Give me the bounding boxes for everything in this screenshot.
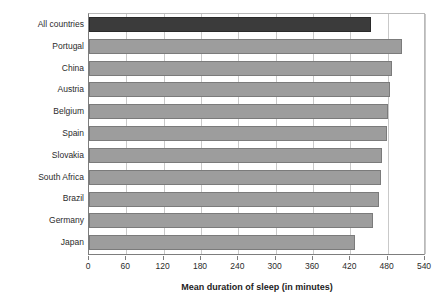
bar[interactable]	[89, 126, 387, 141]
y-axis-tick-label: Belgium	[0, 106, 84, 116]
x-axis-tick-label: 240	[217, 261, 257, 271]
x-axis-tick-label: 300	[255, 261, 295, 271]
y-axis-tick-label: Slovakia	[0, 150, 84, 160]
x-axis-title: Mean duration of sleep (in minutes)	[88, 282, 426, 292]
bar[interactable]	[89, 104, 388, 119]
bar-row	[89, 123, 424, 145]
bar-row	[89, 36, 424, 58]
gridline	[425, 14, 426, 254]
y-axis-tick-label: South Africa	[0, 172, 84, 182]
bar[interactable]	[89, 17, 371, 32]
bar[interactable]	[89, 192, 379, 207]
y-axis-tick-label: Spain	[0, 128, 84, 138]
bar-row	[89, 145, 424, 167]
x-axis-tick-label: 0	[68, 261, 108, 271]
x-axis-tickmark	[387, 256, 388, 260]
x-axis-tick-label: 360	[292, 261, 332, 271]
x-axis-tick-label: 480	[367, 261, 407, 271]
x-axis-tickmark	[125, 256, 126, 260]
x-axis-tick-label: 60	[105, 261, 145, 271]
y-axis-tick-label: Japan	[0, 237, 84, 247]
bar-row	[89, 167, 424, 189]
y-axis-tick-label: Portugal	[0, 41, 84, 51]
x-axis-tickmark	[424, 256, 425, 260]
bar[interactable]	[89, 82, 390, 97]
y-axis-tick-label: All countries	[0, 19, 84, 29]
x-axis-tick-label: 420	[329, 261, 369, 271]
x-axis-ticks: 060120180240300360420480540	[88, 256, 426, 272]
x-axis-tickmark	[88, 256, 89, 260]
y-axis-tick-label: Brazil	[0, 193, 84, 203]
y-axis-labels: All countriesPortugalChinaAustriaBelgium…	[0, 13, 84, 255]
bars-layer	[89, 14, 424, 254]
y-axis-tick-label: China	[0, 63, 84, 73]
bar[interactable]	[89, 39, 402, 54]
x-axis-tickmark	[312, 256, 313, 260]
bar-row	[89, 58, 424, 80]
bar[interactable]	[89, 213, 373, 228]
bar-chart: All countriesPortugalChinaAustriaBelgium…	[0, 0, 446, 304]
bar-row	[89, 210, 424, 232]
bar-row	[89, 14, 424, 36]
x-axis-tick-label: 540	[404, 261, 444, 271]
bar-row	[89, 101, 424, 123]
y-axis-tick-label: Germany	[0, 215, 84, 225]
bar[interactable]	[89, 61, 392, 76]
x-axis-tickmark	[200, 256, 201, 260]
bar[interactable]	[89, 170, 381, 185]
x-axis-tickmark	[349, 256, 350, 260]
y-axis-tick-label: Austria	[0, 84, 84, 94]
x-axis-tickmark	[275, 256, 276, 260]
x-axis-tick-label: 180	[180, 261, 220, 271]
bar-row	[89, 79, 424, 101]
bar[interactable]	[89, 235, 355, 250]
bar-row	[89, 189, 424, 211]
x-axis-tickmark	[163, 256, 164, 260]
x-axis-tick-label: 120	[143, 261, 183, 271]
bar-row	[89, 232, 424, 254]
x-axis-tickmark	[237, 256, 238, 260]
bar[interactable]	[89, 148, 382, 163]
plot-area	[88, 13, 425, 255]
